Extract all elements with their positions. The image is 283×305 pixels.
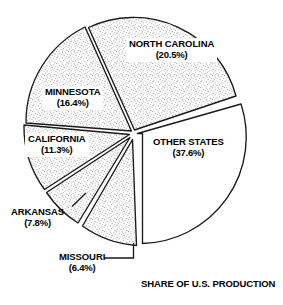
pie-slice-other-states bbox=[138, 104, 247, 244]
slice-label-minnesota-value: (16.4%) bbox=[45, 98, 100, 109]
slice-label-missouri: MISSOURI (6.4%) bbox=[56, 251, 108, 275]
slice-label-other-states: OTHER STATES (37.6%) bbox=[150, 136, 227, 160]
pie-chart: NORTH CAROLINA (20.5%) MINNESOTA (16.4%)… bbox=[0, 0, 283, 305]
slice-label-other-states-value: (37.6%) bbox=[153, 148, 224, 159]
chart-caption: SHARE OF U.S. PRODUCTION bbox=[141, 278, 275, 289]
slice-label-arkansas-value: (7.8%) bbox=[11, 218, 64, 229]
slice-label-california: CALIFORNIA (11.3%) bbox=[25, 133, 89, 157]
slice-label-north-carolina-value: (20.5%) bbox=[129, 50, 214, 61]
slice-label-arkansas: ARKANSAS (7.8%) bbox=[8, 206, 67, 230]
slice-label-california-value: (11.3%) bbox=[28, 145, 86, 156]
slice-label-missouri-value: (6.4%) bbox=[59, 263, 105, 274]
slice-label-minnesota: MINNESOTA (16.4%) bbox=[42, 86, 103, 110]
slice-label-north-carolina: NORTH CAROLINA (20.5%) bbox=[126, 38, 217, 62]
